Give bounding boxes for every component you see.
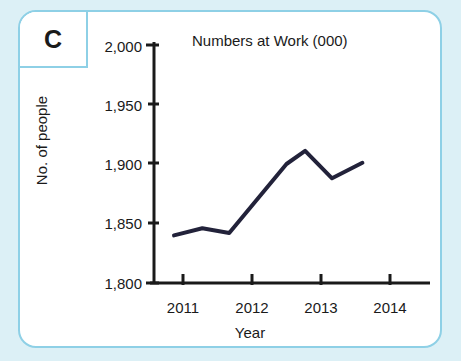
chart-area: Numbers at Work (000) No. of people Year… [20, 12, 444, 350]
data-series-line [174, 151, 362, 235]
figure-panel: C Numbers at Work (000) No. of people Ye… [18, 10, 442, 348]
plot-svg [20, 12, 444, 350]
